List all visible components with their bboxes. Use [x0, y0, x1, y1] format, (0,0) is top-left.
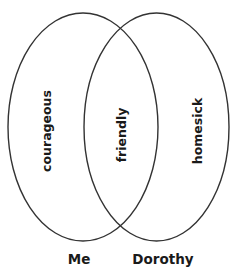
dorothy-set-label: Dorothy — [132, 251, 193, 267]
venn-diagram: courageous friendly homesick Me Dorothy — [0, 0, 231, 267]
shared-trait: friendly — [114, 108, 129, 163]
me-circle — [8, 13, 158, 241]
dorothy-circle — [84, 13, 229, 241]
dorothy-only-trait: homesick — [190, 97, 205, 164]
me-only-trait: courageous — [39, 90, 54, 172]
me-set-label: Me — [68, 251, 91, 267]
